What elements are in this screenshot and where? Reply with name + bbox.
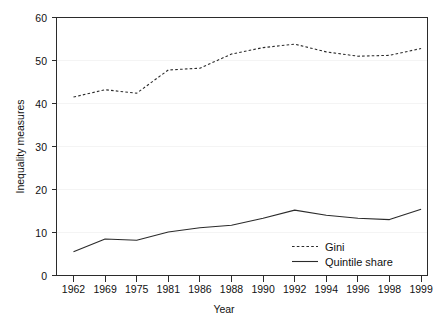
ytick-label-10: 10 (35, 227, 47, 239)
legend-label-gini: Gini (325, 241, 345, 253)
xtick-label-1994: 1994 (315, 283, 339, 295)
ytick-label-40: 40 (35, 98, 47, 110)
y-axis-title: Inequality measures (14, 100, 26, 194)
xtick-label-1999: 1999 (409, 283, 433, 295)
xtick-label-1962: 1962 (62, 283, 86, 295)
ytick-label-0: 0 (41, 270, 47, 282)
xtick-label-1986: 1986 (188, 283, 212, 295)
xtick-label-1990: 1990 (251, 283, 275, 295)
x-axis-title: Year (213, 303, 235, 315)
xtick-label-1996: 1996 (346, 283, 370, 295)
xtick-label-1969: 1969 (93, 283, 117, 295)
ytick-label-30: 30 (35, 141, 47, 153)
legend-label-quintile-share: Quintile share (325, 256, 393, 268)
xtick-label-1988: 1988 (220, 283, 244, 295)
chart-background (0, 0, 448, 325)
xtick-label-1981: 1981 (157, 283, 181, 295)
xtick-label-1975: 1975 (125, 283, 149, 295)
inequality-measures-line-chart: 60 50 40 30 20 10 0 1962 1969 (0, 0, 448, 325)
xtick-label-1992: 1992 (283, 283, 307, 295)
ytick-label-20: 20 (35, 184, 47, 196)
ytick-label-50: 50 (35, 55, 47, 67)
ytick-label-60: 60 (35, 12, 47, 24)
xtick-label-1998: 1998 (378, 283, 402, 295)
chart-canvas: 60 50 40 30 20 10 0 1962 1969 (0, 0, 448, 325)
